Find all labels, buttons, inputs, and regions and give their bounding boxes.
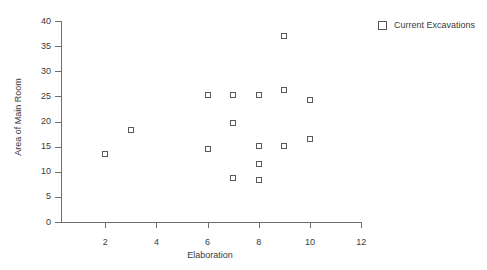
data-point[interactable] [230, 175, 236, 181]
y-tick-label: 25 [26, 91, 51, 101]
y-tick-label: 15 [26, 141, 51, 151]
x-tick-label: 2 [103, 237, 108, 247]
y-tick-label: 40 [26, 16, 51, 26]
data-point[interactable] [230, 92, 236, 98]
x-axis-line [56, 222, 362, 223]
x-tick-mark [156, 222, 157, 228]
y-tick-label: 20 [26, 116, 51, 126]
y-tick-mark [55, 147, 61, 148]
data-point[interactable] [230, 120, 236, 126]
x-tick-label: 12 [356, 237, 366, 247]
legend: Current Excavations [378, 20, 475, 30]
y-axis-line [61, 21, 62, 223]
y-tick-mark [55, 46, 61, 47]
data-point[interactable] [307, 97, 313, 103]
x-tick-mark [259, 222, 260, 228]
data-point[interactable] [281, 33, 287, 39]
x-tick-label: 10 [305, 237, 315, 247]
plot-area [0, 0, 487, 270]
x-tick-label: 4 [154, 237, 159, 247]
data-point[interactable] [256, 143, 262, 149]
data-point[interactable] [256, 92, 262, 98]
legend-marker-icon [378, 21, 387, 30]
data-point[interactable] [256, 177, 262, 183]
y-tick-mark [55, 21, 61, 22]
data-point[interactable] [256, 161, 262, 167]
y-tick-mark [55, 122, 61, 123]
legend-label: Current Excavations [394, 20, 475, 30]
y-tick-mark [55, 222, 61, 223]
data-point[interactable] [128, 127, 134, 133]
data-point[interactable] [281, 87, 287, 93]
data-point[interactable] [102, 151, 108, 157]
y-tick-label: 10 [26, 166, 51, 176]
data-point[interactable] [205, 92, 211, 98]
y-tick-mark [55, 197, 61, 198]
y-tick-mark [55, 71, 61, 72]
y-tick-mark [55, 96, 61, 97]
x-axis-title: Elaboration [0, 250, 420, 260]
data-point[interactable] [205, 146, 211, 152]
x-tick-label: 6 [205, 237, 210, 247]
x-tick-mark [105, 222, 106, 228]
x-tick-mark [310, 222, 311, 228]
y-tick-label: 35 [26, 41, 51, 51]
data-point[interactable] [307, 136, 313, 142]
y-tick-label: 0 [26, 217, 51, 227]
data-point[interactable] [281, 143, 287, 149]
y-tick-label: 30 [26, 66, 51, 76]
x-tick-label: 8 [256, 237, 261, 247]
y-axis-title: Area of Main Room [13, 47, 23, 187]
x-tick-mark [208, 222, 209, 228]
y-tick-mark [55, 172, 61, 173]
x-tick-mark [361, 222, 362, 228]
y-tick-label: 5 [26, 191, 51, 201]
scatter-chart: 0510152025303540 24681012 Area of Main R… [0, 0, 487, 270]
